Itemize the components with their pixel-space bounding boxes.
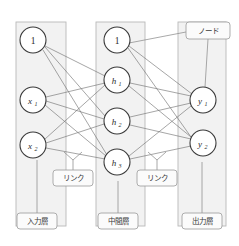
leader-link-callout-1 [64, 152, 82, 170]
node-circle [20, 87, 46, 113]
node-label-subscript: 2 [205, 144, 208, 150]
node-label: x [27, 141, 32, 151]
node-input-x2[interactable]: x 2 [20, 132, 46, 158]
node-output-y1[interactable]: y 1 [190, 87, 216, 113]
callout-label: リンク [147, 174, 168, 183]
leader-link-callout-2 [148, 152, 166, 170]
node-label-subscript: 1 [119, 81, 122, 87]
callout-link-1[interactable]: リンク [53, 170, 93, 186]
callout-link-2[interactable]: リンク [137, 170, 177, 186]
node-label: x [27, 96, 32, 106]
node-hidden-h1[interactable]: h 1 [104, 67, 130, 93]
node-input-x1[interactable]: x 1 [20, 87, 46, 113]
node-hidden-h3[interactable]: h 3 [104, 149, 130, 175]
callout-label: ノード [198, 27, 219, 36]
node-label: 1 [115, 36, 120, 46]
node-label-subscript: 3 [118, 163, 122, 169]
caption-label: 入力層 [27, 216, 48, 226]
node-label: h [112, 117, 117, 127]
node-circle [20, 132, 46, 158]
neural-network-figure: 1 x 1 x 2 1 h 1 [0, 0, 239, 246]
node-label-subscript: 2 [119, 122, 122, 128]
node-label: y [197, 139, 202, 149]
node-circle [104, 108, 130, 134]
caption-output-layer[interactable]: 出力層 [182, 213, 222, 229]
callout-label: リンク [63, 174, 84, 183]
network-diagram-canvas: 1 x 1 x 2 1 h 1 [0, 0, 239, 246]
node-label: h [112, 76, 117, 86]
node-label: h [112, 158, 117, 168]
caption-label: 中間層 [108, 216, 129, 226]
node-hidden-h2[interactable]: h 2 [104, 108, 130, 134]
nodes-input-layer: 1 x 1 x 2 [20, 27, 46, 158]
node-circle [190, 87, 216, 113]
node-label: 1 [31, 36, 36, 46]
node-label-subscript: 1 [205, 101, 208, 107]
node-input-bias[interactable]: 1 [20, 27, 46, 53]
node-label: y [197, 96, 202, 106]
callout-node[interactable]: ノード [186, 22, 230, 39]
node-circle [104, 149, 130, 175]
caption-hidden-layer[interactable]: 中間層 [98, 213, 138, 229]
node-circle [190, 130, 216, 156]
caption-input-layer[interactable]: 入力層 [17, 213, 57, 229]
node-label-subscript: 2 [35, 146, 38, 152]
node-hidden-bias[interactable]: 1 [104, 27, 130, 53]
node-output-y2[interactable]: y 2 [190, 130, 216, 156]
node-circle [104, 67, 130, 93]
node-label-subscript: 1 [35, 101, 38, 107]
caption-label: 出力層 [192, 216, 213, 226]
